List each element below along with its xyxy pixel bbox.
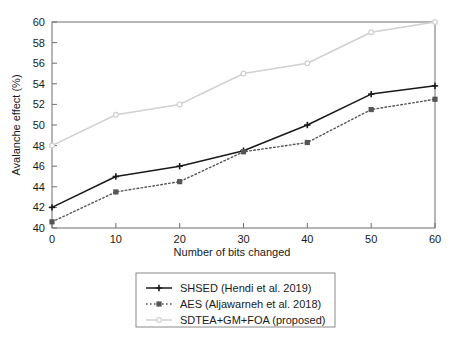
y-tick-label: 40	[33, 222, 45, 234]
x-tick-label: 50	[365, 233, 377, 245]
y-tick-label: 52	[33, 98, 45, 110]
y-tick-label: 58	[33, 37, 45, 49]
x-tick-label: 20	[174, 233, 186, 245]
y-tick-label: 48	[33, 140, 45, 152]
legend-marker-2	[156, 301, 161, 306]
data-point	[305, 140, 310, 145]
legend: SHSED (Hendi et al. 2019)AES (Aljawarneh…	[136, 273, 335, 327]
y-tick-label: 50	[33, 119, 45, 131]
y-axis-title: Avalanche effect (%)	[10, 74, 22, 175]
avalanche-effect-line-chart: 4042444648505254565860 0102030405060 Num…	[0, 0, 460, 337]
legend-marker-3	[157, 318, 162, 323]
data-point	[433, 20, 438, 25]
data-point	[241, 149, 246, 154]
data-point	[369, 30, 374, 35]
x-tick-label: 30	[237, 233, 249, 245]
data-point	[369, 107, 374, 112]
data-point	[177, 102, 182, 107]
data-point	[49, 219, 54, 224]
data-point	[432, 97, 437, 102]
x-tick-label: 40	[301, 233, 313, 245]
data-point	[305, 61, 310, 66]
y-tick-label: 56	[33, 57, 45, 69]
legend-label-3: SDTEA+GM+FOA (proposed)	[180, 314, 326, 326]
x-tick-label: 10	[110, 233, 122, 245]
y-tick-label: 42	[33, 201, 45, 213]
data-point	[50, 143, 55, 148]
y-tick-label: 46	[33, 160, 45, 172]
data-point	[113, 112, 118, 117]
chart-figure: 4042444648505254565860 0102030405060 Num…	[0, 0, 460, 337]
data-point	[177, 179, 182, 184]
x-axis-title: Number of bits changed	[174, 246, 291, 258]
legend-label-2: AES (Aljawarneh et al. 2018)	[180, 298, 321, 310]
y-tick-label: 60	[33, 16, 45, 28]
legend-label-1: SHSED (Hendi et al. 2019)	[180, 282, 311, 294]
y-tick-label: 44	[33, 181, 45, 193]
x-tick-label: 0	[49, 233, 55, 245]
x-tick-label: 60	[429, 233, 441, 245]
data-point	[113, 189, 118, 194]
y-tick-label: 54	[33, 78, 45, 90]
data-point	[241, 71, 246, 76]
